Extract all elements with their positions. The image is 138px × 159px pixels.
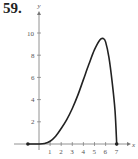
x-tick-label: 2: [59, 148, 63, 156]
y-tick-label: 2: [31, 118, 35, 126]
x-axis-label: x: [131, 141, 136, 149]
function-graph: xy 1234567246810: [0, 0, 138, 159]
y-axis-arrow-icon: [37, 11, 41, 15]
ticks: 1234567246810: [27, 30, 119, 157]
y-tick-label: 4: [31, 96, 35, 104]
x-tick-label: 7: [115, 148, 119, 156]
x-tick-label: 3: [70, 148, 74, 156]
function-curve: [28, 38, 117, 144]
endpoint-dot: [115, 142, 119, 146]
x-tick-label: 6: [104, 148, 108, 156]
y-tick-label: 8: [31, 52, 35, 60]
x-tick-label: 1: [48, 148, 52, 156]
x-tick-label: 4: [81, 148, 85, 156]
y-tick-label: 6: [31, 74, 35, 82]
y-tick-label: 10: [27, 30, 35, 38]
endpoint-dot: [26, 142, 30, 146]
x-axis-arrow-icon: [127, 142, 131, 146]
y-axis-label: y: [37, 2, 42, 10]
x-tick-label: 5: [93, 148, 97, 156]
